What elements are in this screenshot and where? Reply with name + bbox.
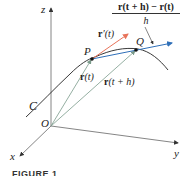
x-axis-label: x [10, 151, 15, 162]
figure-graphic [0, 0, 189, 176]
point-p [90, 57, 94, 61]
x-axis [20, 126, 51, 156]
r-prime-label: r′(t) [98, 29, 114, 39]
point-p-label: P [84, 46, 91, 57]
fraction-numerator: r(t + h) − r(t) [112, 1, 180, 14]
z-axis-label: z [41, 4, 45, 15]
curve-label: C [29, 100, 37, 112]
derivative-vector-figure: z y x O C P Q r′(t) r(t) r(t + h) r(t + … [0, 0, 189, 176]
vector-r-t-plus-h [51, 51, 135, 126]
figure-caption: FIGURE 1 [12, 169, 58, 176]
r-t-plus-h-label: r(t + h) [104, 77, 135, 87]
label-pointer [145, 27, 153, 44]
point-q-label: Q [136, 36, 144, 47]
r-t-label: r(t) [80, 72, 94, 82]
curve-c [26, 48, 168, 117]
y-axis-label: y [174, 148, 179, 159]
origin-label: O [41, 118, 49, 129]
point-q [134, 48, 138, 52]
fraction-denominator: h [112, 14, 180, 26]
difference-quotient-label: r(t + h) − r(t) h [112, 1, 180, 26]
y-axis [51, 126, 178, 143]
vector-r-t [51, 60, 91, 126]
